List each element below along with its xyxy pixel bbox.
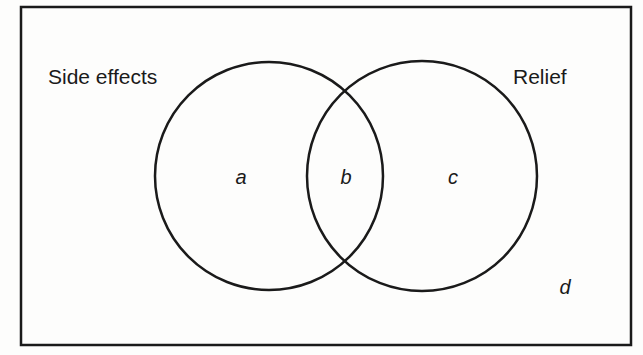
region-label-d: d [559, 276, 571, 298]
venn-diagram: Side effects Relief a b c d [0, 0, 643, 355]
set-label-side-effects: Side effects [48, 65, 157, 88]
universe-rectangle [21, 7, 631, 345]
region-label-b: b [340, 166, 351, 188]
region-label-c: c [448, 166, 458, 188]
set-label-relief: Relief [513, 65, 567, 88]
region-label-a: a [235, 166, 246, 188]
